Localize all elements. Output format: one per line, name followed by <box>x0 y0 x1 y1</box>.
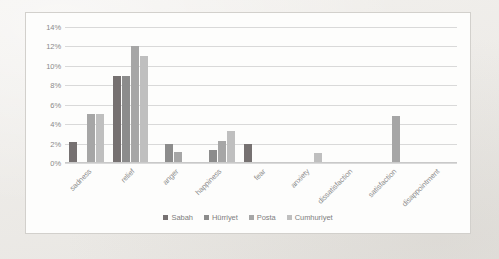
legend-item-hürriyet[interactable]: Hürriyet <box>204 213 238 222</box>
x-axis-label-satisfaction: satisfaction <box>366 167 398 199</box>
bar-slot <box>69 27 77 163</box>
bar-slot <box>436 27 444 163</box>
bar-slot <box>445 27 453 163</box>
bar-slot <box>401 27 409 163</box>
bar-anger-hürriyet <box>165 144 173 163</box>
bar-happiness-cumhuriyet <box>227 131 235 163</box>
bar-slot <box>113 27 121 163</box>
legend-label: Cumhuriyet <box>295 213 333 222</box>
y-axis-tick-label: 10% <box>46 61 61 70</box>
y-axis-tick-label: 8% <box>50 81 61 90</box>
bar-slot <box>427 27 435 163</box>
chart-legend: SabahHürriyetPostaCumhuriyet <box>26 213 470 222</box>
bar-slot <box>87 27 95 163</box>
bar-sadness-sabah <box>69 142 77 163</box>
bar-slot <box>183 27 191 163</box>
bar-group <box>196 27 240 163</box>
legend-label: Sabah <box>171 213 192 222</box>
bar-slot <box>358 27 366 163</box>
plot-area: 14%12%10%8%6%4%2%0% <box>65 27 457 163</box>
bar-slot <box>296 27 304 163</box>
bar-happiness-posta <box>218 141 226 163</box>
bar-group <box>152 27 196 163</box>
bar-slot <box>418 27 426 163</box>
bar-sadness-posta <box>87 114 95 163</box>
x-axis-label-happiness: happiness <box>194 167 224 197</box>
x-axis-label-disappointment: disappointment <box>400 167 441 208</box>
legend-swatch-icon <box>287 215 292 220</box>
legend-item-sabah[interactable]: Sabah <box>163 213 192 222</box>
x-axis-label-dissatisfaction: dissatisfaction <box>316 167 355 206</box>
bar-slot <box>140 27 148 163</box>
bar-relief-sabah <box>113 76 121 163</box>
x-axis-label-relief: relief <box>119 167 136 184</box>
x-axis-label-fear: fear <box>252 167 267 182</box>
bar-group <box>414 27 458 163</box>
bar-slot <box>200 27 208 163</box>
bar-relief-posta <box>131 46 139 163</box>
bar-slot <box>383 27 391 163</box>
y-axis-tick-label: 6% <box>50 100 61 109</box>
screenshot-page: 14%12%10%8%6%4%2%0% sadnessreliefangerha… <box>0 0 499 259</box>
bar-relief-cumhuriyet <box>140 56 148 163</box>
chart-frame: 14%12%10%8%6%4%2%0% sadnessreliefangerha… <box>25 12 471 234</box>
y-axis-tick-label: 2% <box>50 139 61 148</box>
legend-swatch-icon <box>249 215 254 220</box>
bar-group <box>65 27 109 163</box>
bar-slot <box>271 27 279 163</box>
bar-slot <box>305 27 313 163</box>
bar-slot <box>287 27 295 163</box>
bar-slot <box>209 27 217 163</box>
bar-slot <box>331 27 339 163</box>
bar-slot <box>174 27 182 163</box>
legend-label: Posta <box>257 213 276 222</box>
bar-fear-sabah <box>244 144 252 163</box>
y-axis-tick-label: 14% <box>46 23 61 32</box>
bar-slot <box>165 27 173 163</box>
legend-swatch-icon <box>163 215 168 220</box>
bar-slot <box>78 27 86 163</box>
bar-slot <box>340 27 348 163</box>
bar-slot <box>374 27 382 163</box>
legend-label: Hürriyet <box>212 213 238 222</box>
x-axis-label-sadness: sadness <box>67 167 93 193</box>
legend-item-cumhuriyet[interactable]: Cumhuriyet <box>287 213 333 222</box>
bar-relief-hürriyet <box>122 76 130 163</box>
bar-slot <box>392 27 400 163</box>
y-axis-tick-label: 4% <box>50 120 61 129</box>
bar-slot <box>227 27 235 163</box>
bar-slot <box>96 27 104 163</box>
bar-slot <box>218 27 226 163</box>
bar-slot <box>262 27 270 163</box>
bar-group <box>370 27 414 163</box>
bar-slot <box>244 27 252 163</box>
x-axis-label-anxiety: anxiety <box>288 167 311 190</box>
bar-slot <box>131 27 139 163</box>
bar-group <box>283 27 327 163</box>
bar-slot <box>122 27 130 163</box>
bar-satisfaction-posta <box>392 116 400 163</box>
gridline <box>65 163 457 164</box>
bar-group <box>109 27 153 163</box>
y-axis-tick-label: 0% <box>50 159 61 168</box>
legend-item-posta[interactable]: Posta <box>249 213 276 222</box>
bar-slot <box>253 27 261 163</box>
bar-groups <box>65 27 457 163</box>
legend-swatch-icon <box>204 215 209 220</box>
bar-sadness-cumhuriyet <box>96 114 104 163</box>
x-axis-line <box>65 162 457 163</box>
bar-slot <box>314 27 322 163</box>
bar-group <box>239 27 283 163</box>
bar-slot <box>349 27 357 163</box>
bar-group <box>326 27 370 163</box>
x-axis-label-anger: anger <box>161 167 181 187</box>
bar-slot <box>156 27 164 163</box>
y-axis-tick-label: 12% <box>46 42 61 51</box>
